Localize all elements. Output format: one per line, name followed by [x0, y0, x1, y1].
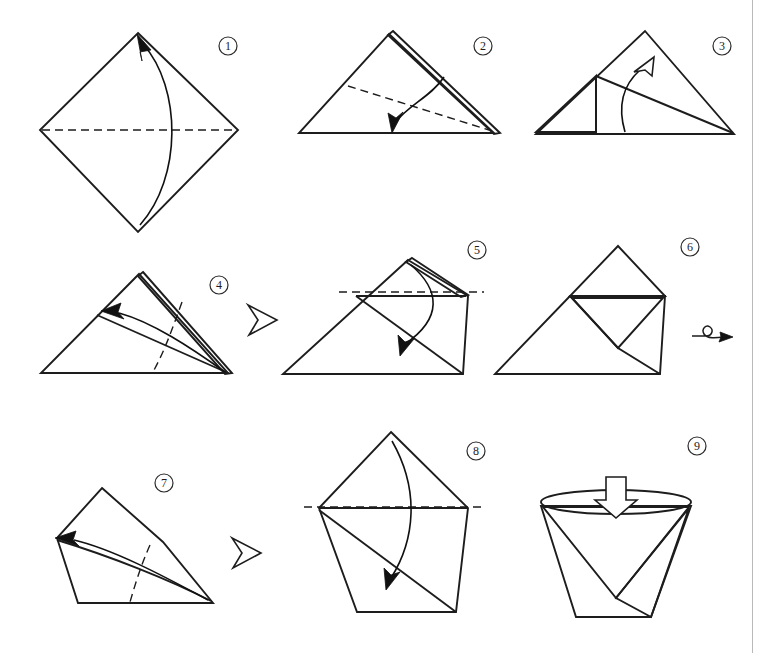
- step-4-paper-triangle: [41, 274, 228, 373]
- step-3-figure: [536, 31, 734, 134]
- step-6-left-shadow-edge: [570, 296, 660, 374]
- step-9-number-badge: 9: [688, 437, 706, 455]
- step-8-figure: [304, 432, 483, 612]
- step-9-cup-body: [541, 506, 691, 617]
- step-8-inner-fold-edge: [319, 510, 456, 612]
- step-1-paper-diamond: [40, 33, 238, 232]
- step-3-unfold-arrow-curve: [622, 70, 640, 132]
- step-6-inner-white-notch: [572, 298, 663, 348]
- step-6-number: 6: [687, 240, 693, 254]
- step-8-paper-body: [319, 432, 468, 612]
- step-1-fold-arrow-curve: [140, 44, 172, 225]
- step-1-number-badge: 1: [219, 37, 237, 55]
- step-2-number-badge: 2: [474, 37, 492, 55]
- step-4-number-badge: 4: [210, 276, 228, 294]
- step-3-number: 3: [719, 39, 725, 53]
- step-9-number: 9: [694, 439, 700, 453]
- result-arrow-step4-to-5: [248, 305, 277, 335]
- step-5-figure: [283, 258, 484, 374]
- step-3-number-badge: 3: [713, 37, 731, 55]
- step-2-fold-arrow-head: [388, 112, 403, 133]
- step-3-paper-triangle: [536, 31, 734, 134]
- step-7-number: 7: [161, 476, 167, 490]
- step-3-flap-edges: [596, 76, 733, 133]
- step-4-fold-arrow-head: [101, 303, 124, 319]
- step-2-fold-arrow-curve: [396, 77, 444, 122]
- turn-over-symbol-step6: [692, 326, 733, 342]
- step-8-number-badge: 8: [467, 442, 485, 460]
- origami-instruction-page: 1 2 3: [0, 0, 771, 653]
- step-6-white-top-flap: [570, 246, 665, 296]
- step-5-number: 5: [474, 243, 480, 257]
- step-9-figure: [541, 477, 691, 617]
- step-6-number-badge: 6: [681, 238, 699, 256]
- step-4-front-flap-edge: [97, 315, 228, 373]
- step-1-number: 1: [225, 39, 231, 53]
- step-5-inner-fold-edge: [356, 296, 463, 374]
- step-8-fold-arrow-curve: [391, 441, 411, 578]
- step-4-figure: [41, 272, 232, 374]
- step-8-number: 8: [473, 444, 479, 458]
- step-8-fold-arrow-head: [384, 568, 400, 590]
- step-6-figure: [495, 246, 665, 374]
- step-3-shaded-wedge: [536, 76, 596, 132]
- step-9-inner-right-fold: [616, 508, 689, 617]
- step-7-number-badge: 7: [155, 474, 173, 492]
- step-4-number: 4: [216, 278, 222, 292]
- step-2-figure: [299, 31, 500, 134]
- step-4-fold-arrow-curve: [119, 313, 225, 372]
- step-7-front-flap-edge: [57, 540, 211, 601]
- step-2-number: 2: [480, 39, 486, 53]
- step-7-valley-crease: [130, 545, 150, 602]
- step-9-push-down-arrow: [595, 477, 637, 518]
- step-5-number-badge: 5: [468, 241, 486, 259]
- result-arrow-step7-to-8: [232, 538, 261, 568]
- step-7-figure: [55, 488, 213, 603]
- step-1-figure: [40, 33, 238, 232]
- origami-diagram-canvas: 1 2 3: [0, 0, 771, 653]
